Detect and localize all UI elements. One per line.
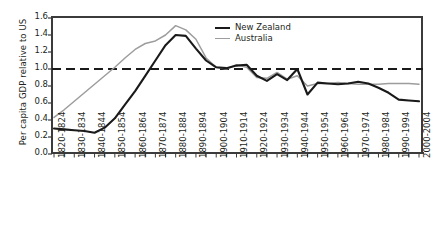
legend-item-new-zealand: New Zealand [215, 22, 291, 33]
x-axis-tick-label: 1880-1884 [179, 112, 188, 158]
x-axis-tick-label: 1990-1994 [402, 112, 411, 158]
x-axis-tick-label: 1920-1924 [260, 112, 269, 158]
x-axis-tick-label: 2000-2004 [423, 112, 432, 158]
x-axis-tick-label: 1900-1904 [220, 112, 229, 158]
legend-swatch-new-zealand [215, 27, 230, 29]
x-axis-tick-label: 1850-1854 [118, 112, 127, 158]
legend-swatch-australia [215, 38, 230, 39]
x-axis-tick-label: 1820-1824 [58, 112, 67, 158]
x-axis-tick-label: 1930-1934 [281, 112, 290, 158]
legend-item-australia: Australia [215, 33, 291, 44]
x-axis-tick-label: 1840-1844 [98, 112, 107, 158]
x-axis-tick-label: 1980-1984 [382, 112, 391, 158]
x-axis-tick-label: 1970-1974 [362, 112, 371, 158]
chart-container: Per capita GDP relative to US 1.61.41.21… [0, 0, 432, 230]
x-axis-tick-label: 1890-1894 [199, 112, 208, 158]
legend: New Zealand Australia [215, 22, 291, 44]
legend-label-new-zealand: New Zealand [235, 22, 291, 33]
x-axis-tick-label: 1950-1954 [321, 112, 330, 158]
x-axis-tick-label: 1830-1834 [78, 112, 87, 158]
x-axis-tick-label: 1960-1964 [341, 112, 350, 158]
x-axis-tick-label: 1940-1944 [301, 112, 310, 158]
legend-label-australia: Australia [235, 33, 273, 44]
x-axis-tick-label: 1860-1864 [139, 112, 148, 158]
x-axis-tick-label: 1910-1914 [240, 112, 249, 158]
x-axis-tick-label: 1870-1874 [159, 112, 168, 158]
